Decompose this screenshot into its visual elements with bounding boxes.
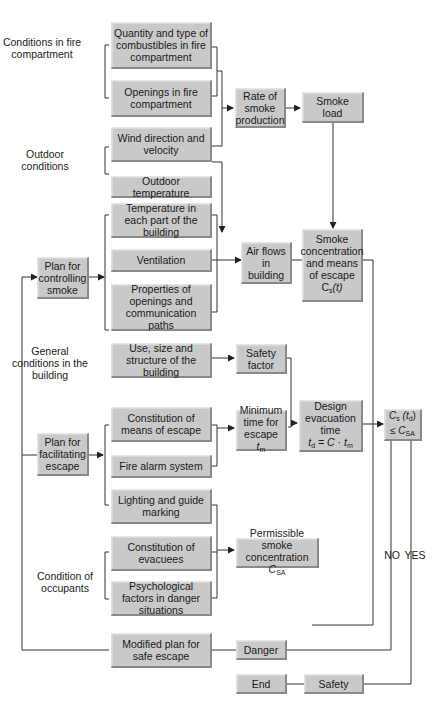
box-properties-openings: Properties of openings and communication… [111, 284, 212, 331]
branch-label-no: NO [383, 549, 401, 561]
box-air-flows: Air flows in building [241, 242, 292, 284]
box-safety: Safety [304, 674, 364, 694]
box-rate-smoke: Rate of smoke production [235, 88, 286, 128]
box-plan-smoke: Plan for controlling smoke [37, 257, 89, 299]
group-label-occupants: Condition of occupants [30, 570, 100, 594]
design-time-label: Design evacuation time [302, 400, 359, 436]
box-use-size: Use, size and structure of the building [111, 343, 212, 378]
design-time-formula: td = C · tm [308, 436, 352, 452]
decision-rhs: ≤ CSA [390, 425, 415, 440]
decision-lhs: Cs (td) [389, 410, 416, 425]
smoke-concentration-symbol: Cs(t) [321, 281, 342, 297]
group-label-general: General conditions in the building [10, 345, 90, 381]
box-permissible: Permissible smoke concentration CSA [236, 538, 319, 568]
group-label-outdoor: Outdoor conditions [10, 148, 80, 172]
box-danger: Danger [236, 640, 287, 660]
box-end: End [236, 674, 287, 694]
box-smoke-concentration: Smoke concentration and means of escape … [302, 229, 363, 302]
group-label-fire-compartment: Conditions in fire compartment [2, 36, 82, 60]
box-constitution-means: Constitution of means of escape [111, 407, 212, 442]
box-minimum-time: Minimum time for escape tm [236, 410, 287, 451]
box-smoke-load: Smoke load [302, 92, 364, 123]
minimum-time-symbol: tm [257, 440, 266, 456]
box-ventilation: Ventilation [111, 249, 212, 272]
box-lighting: Lighting and guide marking [111, 489, 212, 524]
box-design-time: Design evacuation time td = C · tm [299, 400, 363, 452]
box-decision: Cs (td) ≤ CSA [384, 409, 422, 441]
box-plan-escape: Plan for facilitating escape [37, 433, 89, 476]
box-psychological: Psychological factors in danger situatio… [111, 581, 212, 616]
box-modified-plan: Modified plan for safe escape [111, 633, 212, 668]
box-wind: Wind direction and velocity [111, 127, 212, 162]
box-openings-fire: Openings in fire compartment [111, 80, 212, 117]
box-combustibles: Quantity and type of combustibles in fir… [111, 22, 212, 69]
box-safety-factor: Safety factor [236, 344, 287, 374]
box-temp-each-part: Temperature in each part of the building [111, 203, 212, 238]
minimum-time-label: Minimum time for escape [239, 404, 283, 440]
branch-label-yes: YES [404, 549, 426, 561]
box-outdoor-temp: Outdoor temperature [111, 176, 212, 198]
box-constitution-evacuees: Constitution of evacuees [111, 536, 212, 571]
box-fire-alarm: Fire alarm system [111, 455, 212, 478]
smoke-concentration-label: Smoke concentration and means of escape [300, 233, 363, 281]
permissible-label: Permissible smoke concentration CSA [239, 527, 315, 579]
